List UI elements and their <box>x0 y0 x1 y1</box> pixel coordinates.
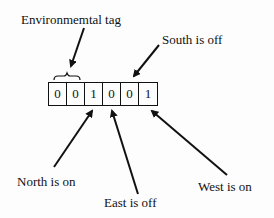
bit-cell: 0 <box>121 83 139 105</box>
bit-cell: 1 <box>139 83 157 105</box>
bit-cell: 1 <box>85 83 103 105</box>
bit-register: 0 0 1 0 0 1 <box>48 82 158 106</box>
bit-cell: 0 <box>103 83 121 105</box>
west-arrow <box>152 111 227 175</box>
env-tag-arrow <box>71 28 84 66</box>
north-arrow <box>54 111 92 167</box>
bit-cell: 0 <box>49 83 67 105</box>
south-label: South is off <box>162 33 222 47</box>
environmental-tag-label: Environmemtal tag <box>21 13 121 27</box>
east-arrow <box>112 111 138 194</box>
east-label: East is off <box>104 196 156 210</box>
north-label: North is on <box>17 175 76 189</box>
sensor-bit-diagram: Environmemtal tag South is off North is … <box>0 0 274 218</box>
south-arrow <box>134 45 159 76</box>
env-tag-brace <box>54 73 80 80</box>
bit-cell: 0 <box>67 83 85 105</box>
west-label: West is on <box>198 180 252 194</box>
